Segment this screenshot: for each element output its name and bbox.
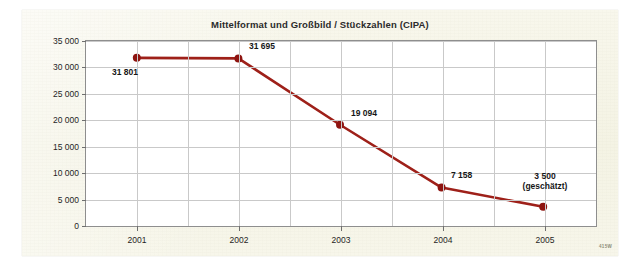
y-axis-label: 35 000 — [53, 36, 79, 46]
data-point-annotation: (geschätzt) — [523, 181, 568, 191]
data-point-value: 31 801 — [112, 67, 138, 77]
data-point-marker[interactable] — [438, 184, 446, 192]
data-point-value: 31 695 — [249, 41, 275, 51]
data-point-label: 31 801 — [112, 67, 138, 77]
y-axis-label: 5 000 — [58, 195, 79, 205]
x-axis-tick — [341, 226, 342, 231]
y-axis-label: 20 000 — [53, 115, 79, 125]
data-point-value: 19 094 — [351, 108, 377, 118]
data-point-label: 3 500(geschätzt) — [523, 171, 568, 191]
y-axis-label: 25 000 — [53, 89, 79, 99]
x-axis-tick — [545, 226, 546, 231]
series-line — [137, 58, 543, 207]
y-axis-label: 15 000 — [53, 142, 79, 152]
y-axis-label: 30 000 — [53, 62, 79, 72]
y-axis-tick — [82, 94, 86, 95]
x-axis-label: 2002 — [230, 235, 249, 245]
x-axis-label: 2001 — [128, 235, 147, 245]
x-axis-label: 2004 — [434, 235, 453, 245]
gridline-vertical-center — [443, 41, 444, 226]
data-point-marker[interactable] — [336, 121, 344, 129]
chart-title: Mittelformat und Großbild / Stückzahlen … — [22, 19, 618, 30]
data-point-value: 7 158 — [451, 170, 472, 180]
gridline-vertical — [392, 41, 393, 226]
data-point-label: 7 158 — [451, 170, 472, 180]
y-axis-tick — [82, 41, 86, 42]
y-axis-tick — [82, 173, 86, 174]
x-axis-tick — [239, 226, 240, 231]
x-axis-tick — [137, 226, 138, 231]
gridline-vertical-center — [239, 41, 240, 226]
gridline-vertical — [494, 41, 495, 226]
y-axis-tick — [82, 226, 86, 227]
y-axis-tick — [82, 147, 86, 148]
gridline-vertical-center — [545, 41, 546, 226]
y-axis-tick — [82, 200, 86, 201]
x-axis-label: 2005 — [536, 235, 555, 245]
x-axis-label: 2003 — [332, 235, 351, 245]
plot-area: 05 00010 00015 00020 00025 00030 00035 0… — [86, 41, 596, 226]
gridline-vertical — [188, 41, 189, 226]
y-axis-tick — [82, 67, 86, 68]
y-axis-label: 0 — [74, 221, 79, 231]
data-point-label: 31 695 — [249, 41, 275, 51]
data-point-label: 19 094 — [351, 108, 377, 118]
plot-frame: 05 00010 00015 00020 00025 00030 00035 0… — [85, 40, 597, 227]
y-axis-tick — [82, 120, 86, 121]
gridline-vertical-center — [341, 41, 342, 226]
watermark-code: 415W — [599, 244, 612, 249]
data-point-value: 3 500 — [534, 171, 555, 181]
y-axis-label: 10 000 — [53, 168, 79, 178]
x-axis-tick — [443, 226, 444, 231]
scanned-chart-card: Mittelformat und Großbild / Stückzahlen … — [22, 10, 618, 256]
gridline-vertical — [290, 41, 291, 226]
